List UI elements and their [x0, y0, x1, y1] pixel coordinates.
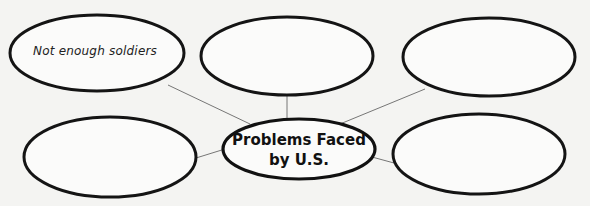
node-bottom-right[interactable]: [393, 114, 565, 194]
node-top-left-text: Not enough soldiers: [33, 44, 157, 58]
connector-top-left: [168, 85, 250, 124]
connector-bottom-right: [372, 157, 394, 163]
node-top-left[interactable]: Not enough soldiers: [10, 15, 184, 91]
center-title-line2: by U.S.: [269, 151, 329, 169]
node-bottom-right-ellipse: [393, 114, 565, 194]
node-top-right[interactable]: [403, 18, 575, 96]
node-bottom-left-ellipse: [24, 117, 196, 197]
connector-top-right: [340, 89, 425, 124]
node-top-right-ellipse: [403, 18, 575, 96]
web-diagram: Not enough soldiers Problems Faced by U.…: [0, 0, 590, 206]
node-bottom-left[interactable]: [24, 117, 196, 197]
center-title-line1: Problems Faced: [232, 131, 366, 149]
node-top-middle[interactable]: [201, 17, 373, 95]
center-ellipse: [223, 119, 375, 179]
center-node: Problems Faced by U.S.: [223, 119, 375, 179]
node-top-middle-ellipse: [201, 17, 373, 95]
connector-bottom-left: [196, 149, 225, 158]
